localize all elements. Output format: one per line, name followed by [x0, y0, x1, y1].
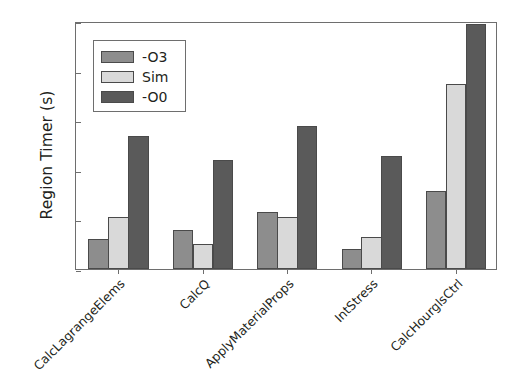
y-tick-mark — [76, 271, 81, 272]
bar — [213, 160, 233, 269]
y-tick-mark — [76, 172, 81, 173]
y-tick-mark — [76, 23, 81, 24]
y-tick-mark — [76, 221, 81, 222]
legend-item: -O3 — [101, 49, 167, 65]
y-tick-mark — [76, 73, 81, 74]
legend-swatch-icon — [101, 91, 134, 103]
x-tick-mark — [456, 269, 457, 274]
bar — [128, 136, 148, 269]
bar — [426, 191, 446, 269]
bar — [193, 244, 213, 269]
bar-chart-figure: Region Timer (s) 0510152025 CalcLagrange… — [0, 0, 528, 391]
legend: -O3Sim-O0 — [93, 40, 186, 112]
bar — [446, 84, 466, 270]
legend-swatch-icon — [101, 51, 134, 63]
y-axis-title: Region Timer (s) — [38, 30, 56, 280]
bar — [108, 217, 128, 269]
legend-item: -O0 — [101, 89, 167, 105]
x-tick-mark — [118, 269, 119, 274]
x-tick-mark — [203, 269, 204, 274]
legend-swatch-icon — [101, 71, 134, 83]
bar — [88, 239, 108, 269]
x-tick-mark — [287, 269, 288, 274]
bar — [257, 212, 277, 269]
bar — [297, 126, 317, 269]
bar — [277, 217, 297, 269]
bar — [361, 237, 381, 269]
legend-label: -O3 — [142, 50, 167, 64]
y-tick-mark — [76, 122, 81, 123]
bar — [342, 249, 362, 269]
legend-item: Sim — [101, 69, 168, 85]
bar — [173, 230, 193, 269]
x-tick-mark — [371, 269, 372, 274]
bar — [466, 24, 486, 269]
legend-label: -O0 — [142, 90, 167, 104]
bar — [381, 156, 401, 269]
legend-label: Sim — [142, 70, 168, 84]
